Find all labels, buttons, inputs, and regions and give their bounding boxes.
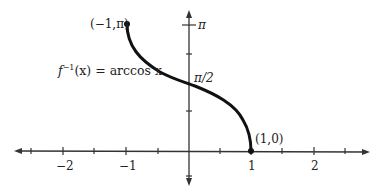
tick-label-neg1: −1 bbox=[119, 160, 137, 172]
label-pi: π bbox=[198, 19, 206, 31]
y-axis-up-arrow-icon bbox=[186, 10, 192, 18]
end-point bbox=[248, 148, 254, 154]
tick-label-neg2: −2 bbox=[56, 160, 74, 172]
label-pi-half: π/2 bbox=[194, 72, 214, 84]
x-axis-left-arrow-icon bbox=[14, 148, 22, 154]
x-axis-right-arrow-icon bbox=[362, 149, 370, 155]
label-end-point: (1,0) bbox=[255, 133, 283, 145]
label-start-point: (−1,π) bbox=[90, 18, 129, 30]
tick-label-1: 1 bbox=[248, 160, 256, 172]
tick-label-2: 2 bbox=[311, 160, 319, 172]
y-axis-down-arrow-icon bbox=[186, 178, 192, 186]
function-inverse-sup: −1 bbox=[63, 63, 75, 72]
function-body: (x) = arccos x bbox=[74, 63, 162, 78]
function-label: f−1(x) = arccos x bbox=[58, 64, 162, 78]
